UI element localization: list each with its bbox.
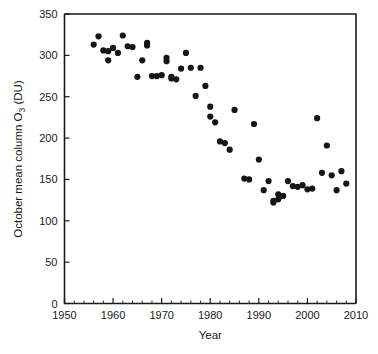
data-point [188,65,194,71]
data-point [110,45,116,51]
y-tick-label: 300 [39,49,57,61]
data-point [314,115,320,121]
data-point [139,57,145,63]
data-point [207,104,213,110]
data-point [299,182,305,188]
x-tick-label: 2000 [295,309,319,321]
data-point [231,107,237,113]
data-point [91,42,97,48]
x-tick-label: 1960 [101,309,125,321]
y-axis-title-main: October mean column O [12,112,24,237]
ozone-scatter-chart: 050100150200250300350 195019601970198019… [0,0,378,354]
y-axis-title-suffix: (DU) [12,80,24,108]
y-tick-label: 50 [45,256,57,268]
data-point [246,176,252,182]
y-tick-label: 250 [39,91,57,103]
x-tick-label: 1980 [198,309,222,321]
data-point [265,178,271,184]
y-tick-label: 200 [39,132,57,144]
data-point [227,147,233,153]
data-point [159,72,165,78]
y-tick-label: 100 [39,215,57,227]
data-point [120,32,126,38]
x-tick-label: 2010 [344,309,368,321]
data-point [212,119,218,125]
data-point [333,187,339,193]
data-point [115,50,121,56]
x-axis-title: Year [199,329,222,341]
data-point [261,187,267,193]
x-tick-label: 1950 [52,309,76,321]
data-point [95,33,101,39]
data-point [280,193,286,199]
data-point [105,57,111,63]
data-point [324,142,330,148]
data-point [163,58,169,64]
data-point [343,180,349,186]
data-point [251,121,257,127]
data-point [309,185,315,191]
data-point [173,76,179,82]
y-tick-label: 150 [39,173,57,185]
data-point [202,83,208,89]
data-point [134,74,140,80]
data-point [329,172,335,178]
data-point [197,65,203,71]
data-point [256,156,262,162]
data-point [178,65,184,71]
data-point [144,42,150,48]
data-point [285,178,291,184]
data-point [183,50,189,56]
y-tick-label: 350 [39,8,57,20]
data-point [207,113,213,119]
chart-canvas: 050100150200250300350 195019601970198019… [0,0,378,354]
data-point [222,140,228,146]
data-point [193,93,199,99]
data-point [338,168,344,174]
x-tick-label: 1970 [149,309,173,321]
x-tick-label: 1990 [247,309,271,321]
data-point [129,44,135,50]
data-point [319,170,325,176]
